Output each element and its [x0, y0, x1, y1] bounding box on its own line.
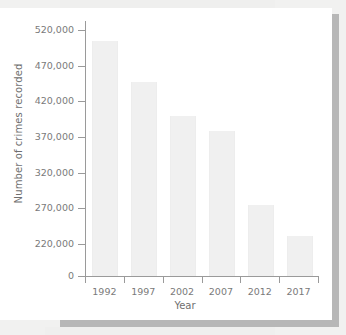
bar: [131, 82, 157, 276]
page-band-bottom: [45, 327, 275, 335]
y-axis-tick: [78, 101, 86, 102]
y-axis-tick: [78, 208, 86, 209]
x-axis-tick: [163, 276, 164, 283]
x-axis-tick: [240, 276, 241, 283]
y-axis-tick: [78, 244, 86, 245]
y-axis-tick-label: 520,000: [8, 24, 74, 35]
bar-chart-card: Number of crimes recorded 520,000470,000…: [0, 8, 332, 320]
y-axis-tick-label: 320,000: [8, 167, 74, 178]
y-axis-tick-label: 220,000: [8, 238, 74, 249]
y-axis-tick: [78, 66, 86, 67]
x-axis-tick: [124, 276, 125, 283]
bar: [287, 236, 313, 276]
x-axis-tick: [279, 276, 280, 283]
y-axis-tick-label: 270,000: [8, 202, 74, 213]
y-axis-tick: [78, 30, 86, 31]
bar: [92, 41, 118, 276]
bar: [170, 116, 196, 276]
y-axis-tick-label: 0: [8, 270, 74, 281]
page-band-top: [60, 0, 275, 8]
y-axis-tick-label: 470,000: [8, 60, 74, 71]
bar: [209, 131, 235, 276]
x-axis-title: Year: [85, 300, 285, 311]
y-axis-line: [85, 21, 86, 276]
card-shadow-right: [332, 14, 339, 326]
x-axis-tick-label: 2017: [276, 286, 322, 297]
y-axis-tick: [78, 173, 86, 174]
y-axis-tick-label: 420,000: [8, 95, 74, 106]
card-shadow-bottom: [60, 320, 339, 327]
y-axis-tick-label: 370,000: [8, 131, 74, 142]
y-axis-tick: [78, 137, 86, 138]
x-axis-tick: [85, 276, 86, 283]
plot-area: Number of crimes recorded 520,000470,000…: [0, 8, 332, 320]
x-axis-tick: [318, 276, 319, 283]
x-axis-tick: [202, 276, 203, 283]
bar: [248, 205, 274, 276]
